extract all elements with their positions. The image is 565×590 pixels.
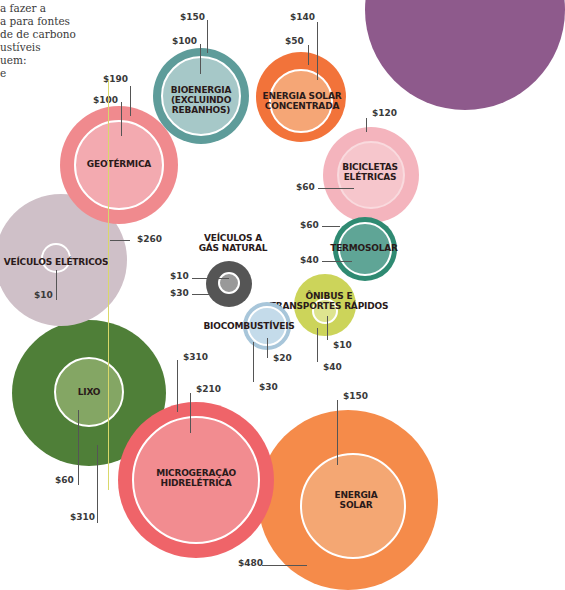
label-energia-solar: ENERGIASOLAR <box>334 490 377 510</box>
leader-line <box>200 44 201 74</box>
value-bike-inner: $60 <box>296 182 315 192</box>
value-lixo-inner: $60 <box>55 475 74 485</box>
inner-gas-natural <box>218 272 240 294</box>
value-termo-inner: $40 <box>300 255 319 265</box>
leader-line <box>267 338 268 358</box>
leader-line <box>78 410 79 485</box>
leader-line <box>207 20 208 53</box>
intro-text: a fazer a a para fontes de de carbono us… <box>0 2 150 80</box>
value-bus-inner: $10 <box>333 340 352 350</box>
value-biofuel-outer: $30 <box>259 382 278 392</box>
decorative-purple-circle <box>365 0 565 110</box>
label-onibus: ÔNIBUS ETRANSPORTES RÁPIDOS <box>270 291 388 311</box>
leader-line <box>317 328 318 362</box>
leader-line <box>308 45 309 65</box>
intro-line: de de carbono <box>0 28 150 41</box>
label-geotermica: GEOTÉRMICA <box>87 159 151 169</box>
value-ev-inner: $10 <box>34 290 53 300</box>
value-csp-inner: $50 <box>285 36 304 46</box>
leader-line <box>322 261 352 262</box>
label-veiculos-eletricos: VEÍCULOS ELÉTRICOS <box>4 257 109 267</box>
value-hydro-inner: $210 <box>196 384 221 394</box>
label-gas-natural: VEÍCULOS AGÁS NATURAL <box>199 233 268 253</box>
value-biofuel-inner: $20 <box>273 353 292 363</box>
leader-line <box>253 342 254 382</box>
label-solar-concentrada: ENERGIA SOLARCONCENTRADA <box>263 91 342 111</box>
value-solar-inner: $150 <box>343 391 368 401</box>
leader-line <box>130 86 131 116</box>
leader-line <box>190 393 191 433</box>
value-csp-outer: $140 <box>290 12 315 22</box>
leader-line <box>121 102 122 136</box>
leader-line <box>192 278 229 279</box>
leader-line <box>322 226 340 227</box>
leader-line <box>262 565 307 566</box>
bubble-gas-natural <box>206 261 252 307</box>
label-microgeracao: MICROGERAÇÃOHIDRELÉTRICA <box>156 468 236 488</box>
value-ev-outer: $260 <box>137 234 162 244</box>
label-bioenergia: BIOENERGIA(EXCLUINDOREBANHOS) <box>171 85 231 115</box>
value-geo-inner: $100 <box>93 95 118 105</box>
value-bus-outer: $40 <box>323 362 342 372</box>
value-gnv-inner: $10 <box>170 271 189 281</box>
leader-line <box>110 240 130 241</box>
leader-line <box>97 445 98 523</box>
label-lixo: LIXO <box>78 387 101 397</box>
value-hydro-outer: $310 <box>183 352 208 362</box>
intro-line: a para fontes <box>0 15 150 28</box>
value-termo-outer: $60 <box>300 220 319 230</box>
leader-line <box>177 360 178 412</box>
value-geo-outer: $190 <box>103 74 128 84</box>
value-solar-outer: $480 <box>238 558 263 568</box>
leader-line <box>366 118 367 132</box>
decorative-guide-line <box>108 80 109 490</box>
value-lixo-outer: $310 <box>70 512 95 522</box>
value-bio-outer: $150 <box>180 12 205 22</box>
label-bicicletas: BICICLETASELÉTRICAS <box>342 162 398 182</box>
leader-line <box>337 400 338 465</box>
value-bio-inner: $100 <box>172 36 197 46</box>
label-biocombustiveis: BIOCOMBUSTÍVEIS <box>203 321 294 331</box>
label-termosolar: TERMOSOLAR <box>330 243 398 253</box>
leader-line <box>318 188 354 189</box>
intro-line: a fazer a <box>0 2 150 15</box>
leader-line <box>317 22 318 80</box>
value-gnv-outer: $30 <box>170 288 189 298</box>
intro-line: uem: <box>0 54 150 67</box>
intro-line: ustíveis <box>0 41 150 54</box>
value-bike-outer: $120 <box>372 108 397 118</box>
leader-line <box>56 270 57 300</box>
leader-line <box>192 294 212 295</box>
leader-line <box>327 316 328 340</box>
